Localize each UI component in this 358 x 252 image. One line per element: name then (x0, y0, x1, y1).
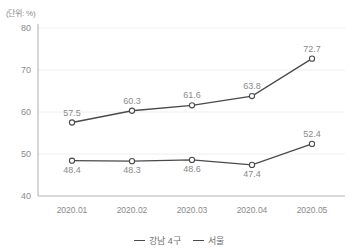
x-axis-category-label: 2020.04 (237, 205, 268, 215)
data-point-marker[interactable] (189, 103, 194, 108)
data-point-marker[interactable] (249, 93, 254, 98)
x-axis-category-label: 2020.01 (57, 205, 88, 215)
y-axis-tick-labels: 4050607080 (21, 23, 31, 201)
legend-line-icon (134, 240, 145, 241)
legend-label: 서울 (208, 234, 224, 247)
data-point-label: 48.4 (63, 165, 81, 175)
legend-label: 강남 4구 (149, 234, 181, 247)
legend-item-gangnam[interactable]: 강남 4구 (134, 234, 181, 247)
legend-item-seoul[interactable]: 서울 (193, 234, 224, 247)
legend-line-icon (193, 240, 204, 241)
data-point-marker[interactable] (309, 141, 314, 146)
data-point-label: 48.3 (123, 165, 141, 175)
y-axis-tick-label: 80 (21, 23, 31, 33)
y-axis-tick-label: 60 (21, 107, 31, 117)
data-point-label: 52.4 (303, 129, 321, 139)
line-chart: (단위: %) 4050607080 2020.012020.022020.03… (0, 0, 358, 252)
x-axis-category-label: 2020.02 (117, 205, 148, 215)
data-point-label: 72.7 (303, 44, 321, 54)
chart-legend: 강남 4구 서울 (0, 234, 358, 247)
data-point-label: 57.5 (63, 108, 81, 118)
y-axis-tick-label: 70 (21, 65, 31, 75)
data-point-label: 47.4 (243, 169, 261, 179)
data-point-marker[interactable] (69, 120, 74, 125)
data-point-label: 63.8 (243, 81, 261, 91)
data-point-label: 60.3 (123, 96, 141, 106)
data-point-label: 48.6 (183, 164, 201, 174)
data-point-label: 61.6 (183, 90, 201, 100)
data-point-marker[interactable] (249, 162, 254, 167)
y-axis-tick-label: 50 (21, 149, 31, 159)
data-point-marker[interactable] (309, 56, 314, 61)
chart-plot-area: 4050607080 2020.012020.022020.032020.042… (0, 0, 358, 252)
data-point-marker[interactable] (189, 157, 194, 162)
data-point-marker[interactable] (129, 108, 134, 113)
data-point-marker[interactable] (129, 159, 134, 164)
x-axis-category-label: 2020.05 (297, 205, 328, 215)
data-point-marker[interactable] (69, 158, 74, 163)
x-axis-category-label: 2020.03 (177, 205, 208, 215)
x-axis-category-labels: 2020.012020.022020.032020.042020.05 (57, 205, 328, 215)
y-axis-tick-label: 40 (21, 191, 31, 201)
